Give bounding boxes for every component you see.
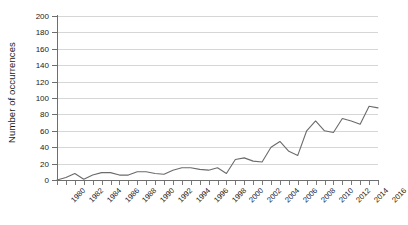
x-axis-tick-mark	[191, 181, 192, 185]
x-axis-tick-label: 1986	[122, 186, 140, 204]
y-axis-tick-labels: 020406080100120140160180200	[20, 11, 52, 181]
x-axis-tick-mark	[57, 181, 58, 185]
x-axis-tick-mark	[351, 181, 352, 185]
y-axis-tick-label: 140	[36, 61, 49, 70]
y-axis-tick-label: 200	[36, 12, 49, 21]
x-axis-tick-label: 2000	[247, 186, 265, 204]
x-axis-tick-mark	[137, 181, 138, 185]
x-axis-tick-label: 2010	[336, 186, 354, 204]
y-axis-tick-label: 100	[36, 94, 49, 103]
x-axis-tick-mark	[289, 181, 290, 185]
plot-area	[57, 16, 378, 180]
x-axis-tick-label: 2014	[372, 186, 390, 204]
x-axis-tick-label: 2002	[265, 186, 283, 204]
x-axis-tick-mark	[244, 181, 245, 185]
x-axis-tick-label: 1982	[87, 186, 105, 204]
x-axis-tick-mark	[342, 181, 343, 185]
x-axis-tick-label: 2012	[354, 186, 372, 204]
x-axis-tick-mark	[307, 181, 308, 185]
x-axis-tick-mark	[182, 181, 183, 185]
x-axis-tick-mark	[325, 181, 326, 185]
x-axis-tick-mark	[164, 181, 165, 185]
x-axis-tick-mark	[111, 181, 112, 185]
x-axis-tick-mark	[378, 181, 379, 185]
x-axis-tick-mark	[262, 181, 263, 185]
x-axis-tick-mark	[119, 181, 120, 185]
x-axis-tick-mark	[253, 181, 254, 185]
x-axis-tick-label: 1980	[69, 186, 87, 204]
x-axis-tick-mark	[218, 181, 219, 185]
y-axis-tick-label: 0	[45, 176, 49, 185]
x-axis-tick-mark	[333, 181, 334, 185]
x-axis-tick-mark	[128, 181, 129, 185]
x-axis-tick-label: 2008	[319, 186, 337, 204]
x-axis-tick-label: 2004	[283, 186, 301, 204]
x-axis-tick-label: 1990	[158, 186, 176, 204]
x-axis-tick-mark	[271, 181, 272, 185]
y-axis-tick-label: 160	[36, 44, 49, 53]
x-axis-tick-mark	[209, 181, 210, 185]
x-axis-tick-mark	[84, 181, 85, 185]
y-axis-tick-label: 80	[40, 110, 49, 119]
x-axis-tick-mark	[102, 181, 103, 185]
x-axis-tick-mark	[226, 181, 227, 185]
x-axis-tick-mark	[200, 181, 201, 185]
x-axis-tick-mark	[369, 181, 370, 185]
x-axis-tick-mark	[316, 181, 317, 185]
x-axis-tick-mark	[155, 181, 156, 185]
y-axis-tick-label: 60	[40, 126, 49, 135]
y-axis-tick-label: 180	[36, 28, 49, 37]
x-axis-tick-label: 1994	[194, 186, 212, 204]
y-axis-tick-label: 20	[40, 159, 49, 168]
x-axis-tick-label: 1996	[212, 186, 230, 204]
x-axis-tick-label: 2006	[301, 186, 319, 204]
y-axis-line	[57, 15, 58, 181]
x-axis-tick-label: 1984	[105, 186, 123, 204]
x-axis-tick-label: 2016	[390, 186, 408, 204]
x-axis-tick-label: 1988	[140, 186, 158, 204]
x-axis-tick-mark	[93, 181, 94, 185]
x-axis-tick-mark	[66, 181, 67, 185]
x-axis-tick-mark	[235, 181, 236, 185]
y-axis-title: Number of occurrences	[0, 0, 22, 185]
x-axis-tick-label: 1998	[229, 186, 247, 204]
x-axis-tick-mark	[280, 181, 281, 185]
y-axis-title-label: Number of occurrences	[6, 42, 17, 143]
x-axis-tick-mark	[173, 181, 174, 185]
x-axis-tick-mark	[298, 181, 299, 185]
x-axis-tick-mark	[75, 181, 76, 185]
x-axis-tick-mark	[146, 181, 147, 185]
x-axis-tick-labels: 1980198219841986198819901992199419961998…	[57, 186, 379, 225]
x-axis-tick-mark	[360, 181, 361, 185]
y-axis-tick-label: 120	[36, 77, 49, 86]
x-axis-tick-label: 1992	[176, 186, 194, 204]
data-series-line	[57, 16, 378, 180]
y-axis-tick-label: 40	[40, 143, 49, 152]
